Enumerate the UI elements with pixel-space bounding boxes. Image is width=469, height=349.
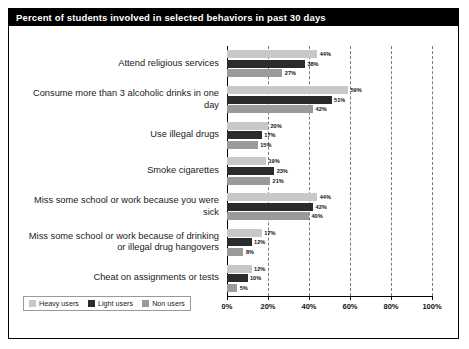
category-label: Smoke cigarettes bbox=[23, 165, 219, 177]
category-label: Use illegal drugs bbox=[23, 129, 219, 141]
legend-label: Light users bbox=[98, 299, 133, 308]
bar-heavy bbox=[227, 193, 317, 201]
bar-value-label: 17% bbox=[264, 229, 275, 237]
bar-value-label: 23% bbox=[277, 167, 288, 175]
bar-value-label: 51% bbox=[334, 96, 345, 104]
bar-value-label: 12% bbox=[254, 238, 265, 246]
bar-value-label: 42% bbox=[316, 105, 327, 113]
bar-heavy bbox=[227, 50, 317, 58]
category-label: Cheat on assignments or tests bbox=[23, 272, 219, 284]
x-tick-40 bbox=[309, 296, 310, 300]
bar-value-label: 44% bbox=[320, 50, 331, 58]
legend-label: Heavy users bbox=[39, 299, 79, 308]
plot-area: Attend religious servicesConsume more th… bbox=[9, 26, 458, 338]
bar-light bbox=[227, 131, 262, 139]
bar-non bbox=[227, 212, 309, 220]
bar-value-label: 44% bbox=[320, 193, 331, 201]
bar-value-label: 8% bbox=[246, 248, 254, 256]
legend-item-light: Light users bbox=[88, 299, 133, 308]
x-tick-0 bbox=[227, 296, 228, 300]
bar-value-label: 5% bbox=[240, 284, 248, 292]
bar-non bbox=[227, 248, 243, 256]
legend-item-non: Non users bbox=[142, 299, 185, 308]
bar-non bbox=[227, 177, 270, 185]
bar-value-label: 15% bbox=[260, 141, 271, 149]
bar-non bbox=[227, 284, 237, 292]
legend-item-heavy: Heavy users bbox=[29, 299, 79, 308]
bar-heavy bbox=[227, 122, 268, 130]
bar-non bbox=[227, 141, 258, 149]
bar-heavy bbox=[227, 265, 252, 273]
bar-light bbox=[227, 238, 252, 246]
bar-value-label: 21% bbox=[273, 177, 284, 185]
bar-heavy bbox=[227, 86, 348, 94]
bar-value-label: 17% bbox=[264, 131, 275, 139]
bar-light bbox=[227, 96, 332, 104]
gridline-40 bbox=[309, 46, 310, 296]
legend-swatch-non bbox=[142, 300, 149, 307]
x-tick-100 bbox=[432, 296, 433, 300]
gridline-100 bbox=[432, 46, 433, 296]
bar-heavy bbox=[227, 157, 266, 165]
bar-value-label: 40% bbox=[312, 212, 323, 220]
chart-title: Percent of students involved in selected… bbox=[9, 9, 458, 26]
bar-value-label: 59% bbox=[350, 86, 361, 94]
category-label: Miss some school or work because you wer… bbox=[23, 195, 219, 218]
x-tick-label: 0% bbox=[222, 302, 233, 311]
category-label: Miss some school or work because of drin… bbox=[23, 231, 219, 254]
bar-light bbox=[227, 274, 248, 282]
bar-value-label: 27% bbox=[285, 69, 296, 77]
chart-legend: Heavy usersLight usersNon users bbox=[23, 296, 191, 311]
legend-swatch-light bbox=[88, 300, 95, 307]
bar-heavy bbox=[227, 229, 262, 237]
bar-value-label: 12% bbox=[254, 265, 265, 273]
legend-swatch-heavy bbox=[29, 300, 36, 307]
bar-light bbox=[227, 203, 313, 211]
x-tick-label: 80% bbox=[383, 302, 398, 311]
bar-light bbox=[227, 60, 305, 68]
bar-value-label: 10% bbox=[250, 274, 261, 282]
x-tick-20 bbox=[268, 296, 269, 300]
bar-value-label: 19% bbox=[268, 157, 279, 165]
x-axis-line bbox=[227, 296, 433, 297]
category-labels: Attend religious servicesConsume more th… bbox=[23, 46, 219, 296]
x-tick-label: 60% bbox=[342, 302, 357, 311]
category-label: Consume more than 3 alcoholic drinks in … bbox=[23, 88, 219, 111]
gridline-60 bbox=[350, 46, 351, 296]
x-tick-label: 40% bbox=[301, 302, 316, 311]
gridline-80 bbox=[391, 46, 392, 296]
bar-non bbox=[227, 69, 282, 77]
bar-non bbox=[227, 105, 313, 113]
bar-value-label: 38% bbox=[307, 60, 318, 68]
bar-value-label: 42% bbox=[316, 203, 327, 211]
x-tick-label: 100% bbox=[422, 302, 441, 311]
chart-frame: Percent of students involved in selected… bbox=[8, 8, 459, 339]
legend-label: Non users bbox=[152, 299, 185, 308]
x-tick-80 bbox=[391, 296, 392, 300]
category-label: Attend religious services bbox=[23, 58, 219, 70]
x-tick-60 bbox=[350, 296, 351, 300]
bar-light bbox=[227, 167, 274, 175]
bars-region: 44%38%27%59%51%42%20%17%15%19%23%21%44%4… bbox=[227, 46, 432, 296]
x-tick-label: 20% bbox=[260, 302, 275, 311]
chart-page: Percent of students involved in selected… bbox=[0, 0, 469, 349]
bar-value-label: 20% bbox=[271, 122, 282, 130]
